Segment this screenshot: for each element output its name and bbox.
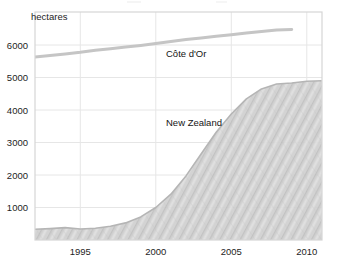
y-tick-label-6000: 6000 bbox=[7, 40, 28, 51]
y-tick-label-5000: 5000 bbox=[7, 72, 28, 83]
y-tick-label-4000: 4000 bbox=[7, 105, 28, 116]
series-label-cote-dor: Côte d'Or bbox=[166, 48, 206, 59]
cut-off-title-artifact bbox=[127, 1, 227, 3]
chart-svg: hectares 6000 5000 4000 3000 2000 1000 1… bbox=[0, 0, 337, 275]
y-axis-unit-label: hectares bbox=[31, 11, 68, 22]
x-tick-label-1995: 1995 bbox=[70, 246, 91, 257]
y-tick-label-2000: 2000 bbox=[7, 170, 28, 181]
y-tick-label-3000: 3000 bbox=[7, 137, 28, 148]
x-tick-label-2005: 2005 bbox=[221, 246, 242, 257]
series-label-new-zealand: New Zealand bbox=[166, 117, 222, 128]
chart-container: hectares 6000 5000 4000 3000 2000 1000 1… bbox=[0, 0, 337, 275]
y-tick-label-1000: 1000 bbox=[7, 202, 28, 213]
x-tick-label-2000: 2000 bbox=[145, 246, 166, 257]
x-tick-label-2010: 2010 bbox=[296, 246, 317, 257]
